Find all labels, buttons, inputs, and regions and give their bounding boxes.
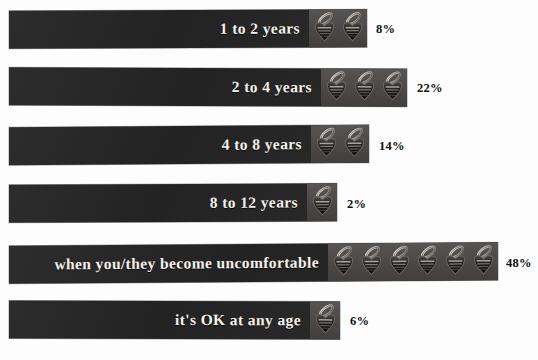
bar[interactable]: 2 to 4 years [9, 67, 407, 106]
pacifier-icon [470, 244, 497, 278]
footer-ghost-text [0, 348, 538, 360]
bar[interactable]: when you/they become uncomfortable [9, 242, 498, 283]
pacifier-icon [309, 185, 336, 219]
bar[interactable]: 8 to 12 years [9, 183, 337, 222]
pacifier-icon [341, 127, 368, 161]
pacifier-icon [358, 245, 385, 279]
pacifier-icon [312, 303, 339, 337]
bar-value-label: 8% [376, 22, 395, 37]
bar-value-label: 14% [379, 139, 405, 154]
bar[interactable]: 1 to 2 years [9, 9, 367, 49]
pacifier-icon [414, 245, 441, 279]
pacifier-icon [311, 11, 338, 45]
pacifier-icon [309, 185, 336, 219]
bar-row: it's OK at any age [0, 301, 538, 339]
horizontal-pictogram-bar-chart: 1 to 2 years [0, 0, 538, 360]
pacifier-icon [323, 70, 350, 104]
bar-value-label: 6% [350, 314, 369, 329]
pacifier-icon [414, 245, 441, 279]
pacifier-icon [386, 245, 413, 279]
pacifier-icon [358, 245, 385, 279]
pacifier-icon [386, 245, 413, 279]
pacifier-icon [442, 244, 469, 278]
bar-row: 1 to 2 years [0, 10, 538, 48]
pacifier-icon [351, 70, 378, 104]
bar-value-label: 22% [417, 81, 443, 96]
pacifier-icon [330, 245, 357, 279]
bar-value-label: 2% [347, 197, 366, 212]
pacifier-icon [313, 127, 340, 161]
pacifier-icon-strip [328, 242, 498, 281]
pacifier-icon [311, 11, 338, 45]
bar-category-label: 1 to 2 years [9, 19, 309, 38]
bar[interactable]: it's OK at any age [9, 300, 340, 339]
bar-row: 8 to 12 years [0, 184, 538, 222]
bar-row: 4 to 8 years [0, 126, 538, 164]
bar-row: when you/they become uncomfortable [0, 244, 538, 282]
pacifier-icon [339, 11, 366, 45]
pacifier-icon [330, 245, 357, 279]
pacifier-icon [323, 70, 350, 104]
pacifier-icon [379, 71, 406, 105]
bar-category-label: when you/they become uncomfortable [9, 253, 328, 273]
pacifier-icon-strip [310, 301, 340, 339]
pacifier-icon [313, 127, 340, 161]
pacifier-icon [351, 70, 378, 104]
bar[interactable]: 4 to 8 years [9, 125, 369, 166]
bar-value-label: 48% [506, 256, 532, 271]
pacifier-icon-strip [311, 125, 369, 163]
pacifier-icon [379, 71, 406, 105]
pacifier-icon [312, 303, 339, 337]
bar-category-label: 4 to 8 years [9, 135, 311, 155]
bar-category-label: 2 to 4 years [9, 77, 321, 96]
pacifier-icon [470, 244, 497, 278]
bar-category-label: 8 to 12 years [9, 193, 307, 212]
pacifier-icon [442, 244, 469, 278]
pacifier-icon [339, 11, 366, 45]
pacifier-icon-strip [307, 183, 337, 221]
bar-category-label: it's OK at any age [9, 310, 310, 329]
pacifier-icon-strip [309, 9, 367, 47]
pacifier-icon-strip [321, 68, 407, 106]
pacifier-icon [341, 127, 368, 161]
bar-row: 2 to 4 years [0, 68, 538, 106]
